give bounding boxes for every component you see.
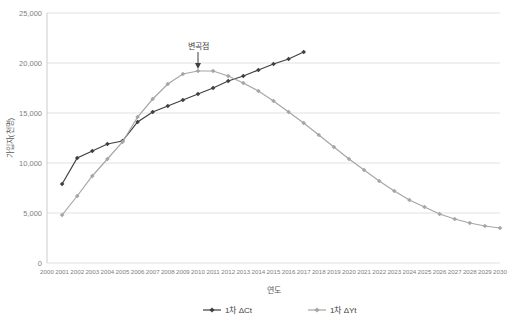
chart-container: 05,00010,00015,00020,00025,0002000200120…: [0, 0, 512, 324]
data-point-marker: [422, 205, 427, 210]
data-point-marker: [226, 74, 231, 79]
y-axis-title: 가입자(천명): [5, 118, 15, 159]
y-tick-label: 5,000: [23, 209, 42, 218]
y-tick-label: 25,000: [19, 9, 42, 18]
y-tick-label: 0: [38, 259, 42, 268]
data-point-marker: [196, 69, 201, 74]
x-tick-label: 2020: [342, 268, 356, 275]
x-tick-label: 2008: [161, 268, 175, 275]
data-point-marker: [211, 86, 216, 91]
data-point-marker: [301, 50, 306, 55]
data-point-marker: [286, 57, 291, 62]
y-tick-label: 20,000: [19, 59, 42, 68]
y-tick-label: 10,000: [19, 159, 42, 168]
x-tick-label: 2029: [478, 268, 492, 275]
x-tick-label: 2024: [403, 268, 417, 275]
x-tick-label: 2018: [312, 268, 326, 275]
x-tick-label: 2022: [372, 268, 386, 275]
data-point-marker: [90, 149, 95, 154]
inflection-point-annotation: 변곡점: [188, 41, 209, 51]
x-tick-label: 2025: [418, 268, 432, 275]
data-point-marker: [241, 74, 246, 79]
x-tick-label: 2013: [236, 268, 250, 275]
x-tick-label: 2005: [116, 268, 130, 275]
y-tick-label: 15,000: [19, 109, 42, 118]
x-tick-label: 2016: [282, 268, 296, 275]
data-point-marker: [105, 142, 110, 147]
x-tick-label: 2015: [267, 268, 281, 275]
data-point-marker: [181, 98, 186, 103]
x-tick-label: 2002: [70, 268, 84, 275]
x-tick-label: 2021: [357, 268, 371, 275]
data-point-marker: [256, 68, 261, 73]
x-tick-label: 2004: [101, 268, 115, 275]
x-tick-label: 2028: [463, 268, 477, 275]
x-tick-label: 2019: [327, 268, 341, 275]
data-point-marker: [271, 62, 276, 67]
x-tick-label: 2007: [146, 268, 160, 275]
data-point-marker: [437, 212, 442, 217]
x-tick-label: 2001: [55, 268, 69, 275]
data-point-marker: [226, 79, 231, 84]
data-point-marker: [241, 81, 246, 86]
x-tick-label: 2030: [493, 268, 507, 275]
legend-label: 1차 ΔCt: [225, 306, 253, 315]
x-tick-label: 2000: [40, 268, 54, 275]
x-tick-label: 2006: [131, 268, 145, 275]
data-point-marker: [468, 221, 473, 226]
x-tick-label: 2011: [206, 268, 220, 275]
x-tick-label: 2014: [252, 268, 266, 275]
data-point-marker: [483, 224, 488, 229]
series-line: [62, 71, 500, 228]
line-chart: 05,00010,00015,00020,00025,0002000200120…: [0, 0, 512, 324]
x-tick-label: 2003: [85, 268, 99, 275]
x-tick-label: 2023: [387, 268, 401, 275]
x-tick-label: 2010: [191, 268, 205, 275]
legend-marker: [314, 307, 319, 312]
data-point-marker: [498, 226, 503, 231]
legend-marker: [209, 307, 214, 312]
annotation-arrow-head: [195, 63, 201, 69]
x-axis-title: 연도: [267, 286, 281, 295]
x-tick-label: 2026: [433, 268, 447, 275]
data-point-marker: [211, 69, 216, 74]
data-point-marker: [166, 104, 171, 109]
data-point-marker: [196, 92, 201, 97]
x-tick-label: 2017: [297, 268, 311, 275]
x-tick-label: 2009: [176, 268, 190, 275]
x-tick-label: 2012: [221, 268, 235, 275]
x-tick-label: 2027: [448, 268, 462, 275]
data-point-marker: [452, 217, 457, 222]
legend-label: 1차 ΔYt: [330, 306, 357, 315]
